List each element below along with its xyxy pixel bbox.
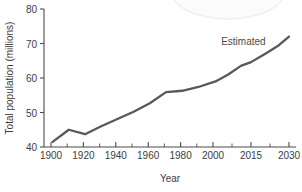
population-line-chart: 80 70 60 50 40 1900 1920 1940 xyxy=(0,0,302,192)
x-tick-label-2000: 2000 xyxy=(202,150,225,161)
y-axis-title: Total population (millions) xyxy=(4,22,15,135)
y-tick-label-80: 80 xyxy=(26,4,38,15)
x-tick-label-2030: 2030 xyxy=(278,150,301,161)
x-tick-label-2015: 2015 xyxy=(240,150,263,161)
y-tick-label-40: 40 xyxy=(26,142,38,153)
x-axis: 1900 1920 1940 1960 1980 2000 2015 2030 xyxy=(40,142,301,161)
chart-canvas: 80 70 60 50 40 1900 1920 1940 xyxy=(0,0,302,192)
y-tick-label-70: 70 xyxy=(26,39,38,50)
x-tick-label-1920: 1920 xyxy=(72,150,95,161)
estimated-annotation: Estimated xyxy=(221,36,265,47)
x-tick-label-1940: 1940 xyxy=(105,150,128,161)
x-tick-label-1960: 1960 xyxy=(137,150,160,161)
y-tick-label-50: 50 xyxy=(26,108,38,119)
x-tick-label-1900: 1900 xyxy=(40,150,63,161)
y-tick-label-60: 60 xyxy=(26,73,38,84)
x-axis-title: Year xyxy=(160,173,181,184)
population-series-line xyxy=(53,37,289,142)
y-axis: 80 70 60 50 40 xyxy=(26,4,44,153)
x-tick-label-1980: 1980 xyxy=(169,150,192,161)
